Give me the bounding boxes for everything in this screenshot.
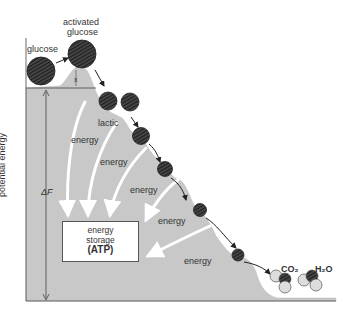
molecule-6: [194, 204, 207, 217]
lactic-label: lactic: [98, 118, 119, 128]
co2-label: CO₂: [281, 264, 299, 274]
y-axis-label: potential energy: [0, 133, 7, 197]
activated-glucose-label-2: glucose: [67, 27, 98, 37]
delta-f-label: ΔF: [41, 187, 53, 197]
molecule-7: [232, 249, 244, 261]
glucose-molecule: [27, 57, 55, 85]
energy-label-1: energy: [71, 135, 99, 145]
energy-label-4: energy: [158, 216, 186, 226]
energy-label-2: energy: [100, 157, 128, 167]
activated-glucose-label-1: activated: [63, 17, 99, 27]
activated-glucose-molecule: [68, 40, 96, 68]
energy-label-3: energy: [130, 185, 158, 195]
molecule-3a: [99, 92, 117, 110]
glucose-label: glucose: [27, 44, 58, 54]
energy-storage-box: energy storage (ATP): [62, 221, 139, 262]
molecule-5: [158, 162, 173, 177]
storage-line-3: (ATP): [88, 244, 114, 255]
molecule-4: [133, 128, 150, 145]
x-label: x: [74, 75, 78, 85]
molecule-3b: [121, 93, 139, 111]
h2o-label: H₂O: [315, 264, 333, 274]
energy-label-5: energy: [184, 256, 212, 266]
storage-line-1: energy: [63, 225, 138, 235]
